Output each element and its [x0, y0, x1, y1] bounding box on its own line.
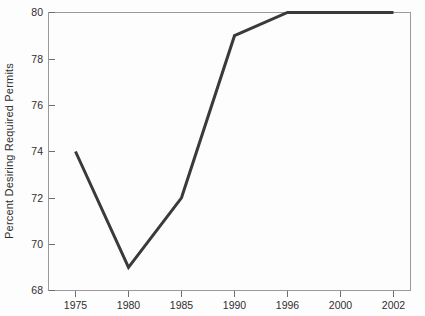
y-tick-label-70: 70 [31, 238, 43, 250]
y-tick-label-80: 80 [31, 6, 43, 18]
x-tick-label-1985: 1985 [170, 299, 194, 311]
x-axis-ticks [76, 291, 394, 297]
x-axis: 1975 1980 1985 1990 1996 2000 2002 [64, 291, 406, 312]
y-tick-label-68: 68 [31, 284, 43, 296]
y-tick-label-72: 72 [31, 192, 43, 204]
y-axis-title: Percent Desiring Required Permits [3, 63, 15, 239]
x-tick-label-1996: 1996 [276, 299, 300, 311]
y-tick-label-76: 76 [31, 99, 43, 111]
y-axis: 68 70 72 74 76 78 80 Percent Desiring Re… [3, 6, 55, 296]
x-axis-tick-labels: 1975 1980 1985 1990 1996 2000 2002 [64, 299, 406, 311]
x-tick-label-2002: 2002 [382, 299, 406, 311]
x-tick-label-2000: 2000 [329, 299, 353, 311]
chart-container: 68 70 72 74 76 78 80 Percent Desiring Re… [0, 0, 425, 316]
x-tick-label-1990: 1990 [223, 299, 247, 311]
data-series-line [76, 13, 394, 268]
data-series-group [76, 13, 394, 268]
y-axis-tick-labels: 68 70 72 74 76 78 80 [31, 6, 43, 296]
x-tick-label-1975: 1975 [64, 299, 88, 311]
x-tick-label-1980: 1980 [117, 299, 141, 311]
y-axis-ticks [49, 13, 55, 291]
line-chart: 68 70 72 74 76 78 80 Percent Desiring Re… [0, 0, 425, 316]
y-tick-label-78: 78 [31, 53, 43, 65]
y-tick-label-74: 74 [31, 145, 43, 157]
